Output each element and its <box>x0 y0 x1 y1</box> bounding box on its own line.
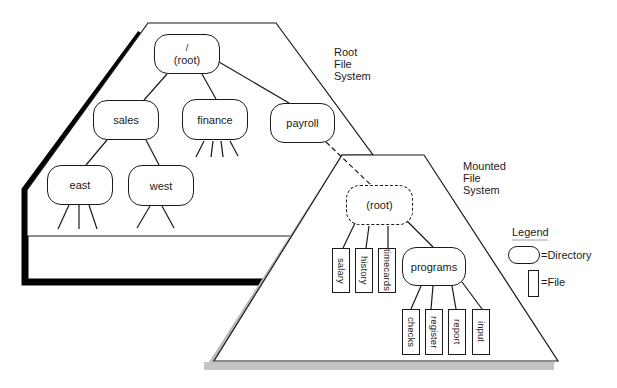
file-report[interactable]: report <box>448 309 466 355</box>
file-timecards[interactable]: timecards <box>378 248 396 293</box>
legend-file-label: =File <box>541 276 565 288</box>
file-label: salary <box>336 258 347 284</box>
mounted-fs-title-line: System <box>463 184 506 196</box>
directory-label: (root) <box>366 199 392 211</box>
directory-mounted-root[interactable]: (root) <box>346 185 413 225</box>
file-label: history <box>359 256 370 285</box>
file-label: input <box>476 321 487 342</box>
file-label: checks <box>406 317 417 347</box>
legend-file-icon <box>528 270 539 297</box>
root-fs-title: Root File System <box>334 46 371 82</box>
directory-label: east <box>70 179 91 191</box>
legend-directory-label: =Directory <box>541 249 591 261</box>
directory-label: sales <box>113 114 139 126</box>
file-label: report <box>452 319 463 344</box>
file-label: timecards <box>382 249 393 291</box>
mounted-fs-title-line: Mounted <box>463 160 506 172</box>
legend-directory-icon <box>508 246 540 264</box>
mounted-fs-title-line: File <box>463 172 506 184</box>
directory-finance[interactable]: finance <box>182 99 248 140</box>
directory-programs[interactable]: programs <box>402 247 466 286</box>
file-salary[interactable]: salary <box>332 248 350 293</box>
file-checks[interactable]: checks <box>402 309 420 355</box>
file-input[interactable]: input <box>472 309 490 355</box>
mounted-fs-title: Mounted File System <box>463 160 506 196</box>
legend-title: Legend <box>512 226 549 238</box>
directory-label: west <box>150 180 173 192</box>
directory-sales[interactable]: sales <box>93 100 159 140</box>
directory-root-slash: / <box>186 42 189 54</box>
directory-west[interactable]: west <box>128 165 194 206</box>
directory-label: programs <box>411 261 457 273</box>
root-fs-title-line: Root <box>334 46 371 58</box>
root-fs-title-line: File <box>334 58 371 70</box>
file-label: register <box>429 316 440 348</box>
directory-root-label: (root) <box>174 54 200 66</box>
directory-label: payroll <box>286 117 318 129</box>
mounted-fs-shadow-bottom <box>204 362 554 370</box>
file-history[interactable]: history <box>355 248 373 293</box>
directory-payroll[interactable]: payroll <box>270 103 335 143</box>
directory-label: finance <box>197 114 232 126</box>
file-register[interactable]: register <box>425 309 443 355</box>
root-fs-title-line: System <box>334 70 371 82</box>
directory-east[interactable]: east <box>47 165 113 205</box>
directory-root[interactable]: / (root) <box>154 34 220 74</box>
